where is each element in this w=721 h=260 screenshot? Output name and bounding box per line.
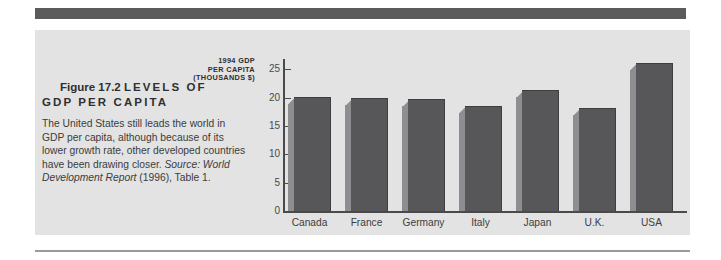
y-tick-mark — [285, 211, 291, 212]
bar — [402, 100, 445, 211]
y-tick-label: 5 — [262, 178, 280, 188]
bar — [459, 107, 502, 211]
y-axis-title-line3: (THOUSANDS $) — [193, 73, 255, 82]
caption-tail-text: (1996), Table 1. — [136, 172, 210, 183]
bar-front-face — [579, 108, 616, 211]
y-tick-label: 20 — [262, 93, 280, 103]
top-divider-rule — [35, 8, 686, 19]
figure-number: Figure 17.2 — [60, 81, 121, 93]
x-axis-line — [283, 211, 687, 213]
bar-front-face — [294, 97, 331, 211]
y-tick-label: 15 — [262, 121, 280, 131]
bar — [288, 98, 331, 211]
y-axis-line — [283, 59, 285, 213]
x-axis-label: Germany — [393, 217, 454, 229]
figure-description: The United States still leads the world … — [42, 117, 247, 185]
bar-front-face — [465, 106, 502, 211]
y-tick-label: 0 — [262, 206, 280, 216]
bar-chart: 1994 GDP PER CAPITA (THOUSANDS $) 051015… — [262, 55, 687, 230]
bar-front-face — [522, 90, 559, 211]
figure-title-line1: LEVELS OF — [124, 81, 207, 93]
y-tick-label: 25 — [262, 64, 280, 74]
x-axis-label: Japan — [507, 217, 568, 229]
bar — [573, 109, 616, 211]
x-axis-label: USA — [621, 217, 682, 229]
bar — [345, 99, 388, 211]
y-axis-title: 1994 GDP PER CAPITA (THOUSANDS $) — [135, 57, 255, 83]
y-tick-mark — [285, 69, 291, 70]
figure-root: Figure 17.2 LEVELS OF GDP PER CAPITA The… — [0, 0, 721, 260]
bar — [516, 91, 559, 211]
y-tick-label: 10 — [262, 149, 280, 159]
bar — [630, 64, 673, 211]
figure-caption-block: Figure 17.2 LEVELS OF GDP PER CAPITA The… — [42, 80, 247, 185]
bottom-divider-rule — [35, 250, 690, 252]
figure-title-line2: GDP PER CAPITA — [42, 96, 168, 108]
x-axis-label: Italy — [450, 217, 511, 229]
bar-front-face — [351, 98, 388, 211]
bar-front-face — [636, 63, 673, 211]
x-axis-label: France — [336, 217, 397, 229]
x-axis-label: U.K. — [564, 217, 625, 229]
bar-front-face — [408, 99, 445, 211]
x-axis-label: Canada — [279, 217, 340, 229]
figure-title: Figure 17.2 LEVELS OF GDP PER CAPITA — [42, 80, 247, 110]
